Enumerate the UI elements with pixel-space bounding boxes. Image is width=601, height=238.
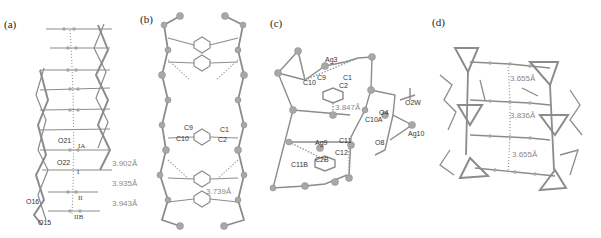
atom-label-o21: O21 xyxy=(58,137,71,144)
atom-label-c10a: C10A xyxy=(365,116,383,123)
panel-a-structure: O21 O22 O16 O15 IA I II IIB 3.902Å 3.935… xyxy=(0,0,140,238)
distance-label-3: 3.655Å xyxy=(512,150,538,159)
atom-label-o8: O8 xyxy=(375,139,384,146)
atom-label-c11b: C11B xyxy=(291,161,308,168)
atom-label-c11: C11 xyxy=(339,137,351,144)
distance-label-2: 3.935Å xyxy=(112,179,138,188)
atom-label-c1: C1 xyxy=(220,126,229,133)
atom-label-c9: C9 xyxy=(184,124,193,131)
distance-label: 3.739Å xyxy=(206,187,232,196)
panel-b: (b) xyxy=(140,0,265,238)
atom-label-c1: C1 xyxy=(343,74,352,81)
atom-label-ag10: Ag10 xyxy=(408,130,424,138)
atom-label-o22: O22 xyxy=(57,159,70,166)
panel-b-structure: C9 C10 C1 C2 3.739Å xyxy=(140,0,265,238)
atom-label-c2b: C2B xyxy=(315,156,329,163)
panel-c-structure: Ag3 C9 C10 C1 C2 O4 O2W C10A O8 Ag10 Ag9… xyxy=(265,0,430,238)
atom-label-c10: C10 xyxy=(303,79,316,86)
atom-label-c12: C12 xyxy=(335,149,348,156)
atom-label-c10: C10 xyxy=(176,135,189,142)
stack-label-iib: IIB xyxy=(74,213,84,221)
atom-label-c2: C2 xyxy=(339,82,348,89)
atom-label-ag3: Ag3 xyxy=(325,56,338,64)
atom-label-ag9: Ag9 xyxy=(315,139,328,147)
distance-label-3: 3.943Å xyxy=(112,199,138,208)
distance-label-1: 3.655Å xyxy=(510,74,536,83)
atom-label-c2: C2 xyxy=(218,136,227,143)
atom-label-o4: O4 xyxy=(379,109,388,116)
atom-label-o2w: O2W xyxy=(405,99,421,106)
distance-label-2: 3.836Å xyxy=(510,111,536,120)
distance-label: 3.847Å xyxy=(335,103,361,112)
stack-label-ii: II xyxy=(78,194,83,202)
atom-label-c9: C9 xyxy=(317,74,326,81)
atom-label-o15: O15 xyxy=(38,219,51,226)
distance-label-1: 3.902Å xyxy=(112,159,138,168)
stack-label-i: I xyxy=(77,168,80,176)
stack-label-ia: IA xyxy=(78,142,85,150)
panel-d: (d) xyxy=(430,0,601,238)
atom-label-o16: O16 xyxy=(26,198,39,205)
panel-d-structure: 3.655Å 3.836Å 3.655Å xyxy=(430,0,601,238)
panel-c: (c) xyxy=(265,0,430,238)
panel-a: (a) xyxy=(0,0,140,238)
